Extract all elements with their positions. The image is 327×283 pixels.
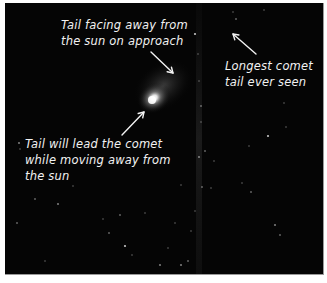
star [190, 230, 191, 231]
star [285, 126, 286, 127]
annotation-longest-tail: Longest comet tail ever seen [225, 58, 313, 90]
star [263, 9, 264, 10]
annotation-approach-tail: Tail facing away from the sun on approac… [61, 17, 188, 49]
star [174, 222, 175, 223]
star [102, 218, 103, 219]
annotation-line: tail ever seen [225, 74, 313, 90]
star [72, 185, 73, 186]
star [241, 182, 242, 183]
star [201, 186, 202, 187]
annotation-line: the sun on approach [61, 33, 188, 49]
star [18, 142, 20, 144]
star [194, 33, 196, 35]
star [197, 53, 198, 54]
arrow-shaft [122, 112, 144, 135]
star [180, 264, 182, 266]
star [124, 245, 126, 247]
star [187, 260, 188, 261]
star [213, 160, 214, 161]
star [167, 247, 168, 248]
star [274, 224, 276, 226]
annotation-line: Tail will lead the comet [25, 136, 171, 152]
annotation-lead-tail: Tail will lead the comet while moving aw… [25, 136, 171, 184]
star [248, 145, 249, 146]
star [34, 198, 35, 199]
star [131, 254, 132, 255]
comet-tail-streak [196, 3, 202, 274]
annotation-line: Longest comet [225, 58, 313, 74]
star [198, 80, 199, 81]
star [119, 214, 120, 215]
star [200, 121, 201, 122]
star [232, 11, 233, 12]
star [279, 234, 280, 235]
star [204, 150, 205, 151]
arrow-shaft [233, 34, 256, 54]
star [198, 156, 200, 158]
star [57, 203, 59, 205]
annotation-line: while moving away from [25, 152, 171, 168]
star [200, 105, 201, 106]
star [180, 184, 181, 185]
star [250, 191, 251, 192]
star [108, 232, 109, 233]
comet-photo: Tail facing away from the sun on approac… [5, 3, 324, 275]
star [159, 264, 161, 266]
star [19, 148, 20, 149]
star [16, 222, 17, 223]
star [210, 187, 211, 188]
annotation-line: Tail facing away from [61, 17, 188, 33]
star [44, 260, 45, 261]
star [283, 102, 284, 103]
star [194, 210, 195, 211]
comet-nucleus [148, 96, 156, 104]
star [144, 212, 145, 213]
star [235, 18, 236, 19]
star [267, 135, 269, 137]
annotation-line: the sun [25, 168, 171, 184]
